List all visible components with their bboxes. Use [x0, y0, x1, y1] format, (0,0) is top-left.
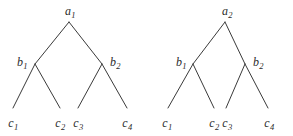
node-label-a2-right-tree: a2 — [222, 5, 232, 17]
tree-edge — [193, 22, 225, 64]
node-label-c3-right-tree: c3 — [222, 117, 232, 129]
node-label-subscript: 1 — [168, 122, 172, 132]
node-label-subscript: 1 — [182, 61, 186, 71]
node-label-base: c — [73, 116, 78, 130]
figure-canvas: a1b1b2c1c2c3c4a2b1b2c1c2c3c4 — [0, 0, 293, 136]
tree-edge — [69, 22, 102, 64]
node-label-base: c — [122, 116, 127, 130]
tree-edge — [245, 64, 268, 108]
node-label-c4-left-tree: c4 — [122, 117, 132, 129]
tree-edge — [168, 64, 193, 108]
node-label-base: c — [264, 116, 269, 130]
tree-edge — [193, 64, 214, 108]
node-label-b1-right-tree: b1 — [176, 56, 186, 68]
node-label-subscript: 3 — [228, 122, 232, 132]
node-label-subscript: 2 — [228, 10, 232, 20]
node-label-subscript: 4 — [128, 122, 132, 132]
node-label-subscript: 1 — [23, 61, 27, 71]
node-label-subscript: 1 — [14, 122, 18, 132]
node-label-subscript: 2 — [215, 122, 219, 132]
tree-edge — [35, 22, 69, 64]
node-label-c3-left-tree: c3 — [73, 117, 83, 129]
tree-edge — [102, 64, 127, 108]
tree-edges-layer — [0, 0, 293, 136]
tree-edge — [78, 64, 102, 108]
node-label-b2-right-tree: b2 — [253, 56, 263, 68]
node-label-c1-right-tree: c1 — [162, 117, 172, 129]
node-label-base: c — [209, 116, 214, 130]
tree-edge — [226, 64, 245, 108]
node-label-b1-left-tree: b1 — [17, 56, 27, 68]
node-label-a1-left-tree: a1 — [65, 5, 75, 17]
node-label-c1-left-tree: c1 — [8, 117, 18, 129]
node-label-subscript: 4 — [270, 122, 274, 132]
node-label-subscript: 2 — [61, 122, 65, 132]
tree-edge — [225, 22, 245, 64]
node-label-subscript: 1 — [71, 10, 75, 20]
node-label-subscript: 2 — [116, 61, 120, 71]
node-label-base: c — [162, 116, 167, 130]
node-label-subscript: 2 — [259, 61, 263, 71]
node-label-base: c — [222, 116, 227, 130]
node-label-base: c — [55, 116, 60, 130]
node-label-c2-right-tree: c2 — [209, 117, 219, 129]
node-label-c2-left-tree: c2 — [55, 117, 65, 129]
node-label-subscript: 3 — [79, 122, 83, 132]
tree-edge — [35, 64, 60, 108]
node-label-b2-left-tree: b2 — [110, 56, 120, 68]
node-label-c4-right-tree: c4 — [264, 117, 274, 129]
node-label-base: c — [8, 116, 13, 130]
